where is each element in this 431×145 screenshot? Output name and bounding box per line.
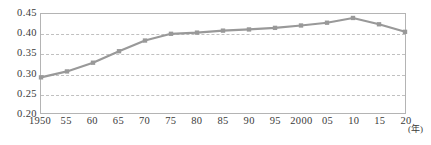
data-point-marker xyxy=(247,27,251,31)
x-axis-tick-label: 05 xyxy=(322,116,333,127)
y-axis-tick-label: 0.25 xyxy=(3,89,37,100)
plot-area xyxy=(40,13,406,114)
data-point-marker xyxy=(403,30,407,34)
x-axis-tick-label: 95 xyxy=(270,116,281,127)
x-axis-unit-label: (年) xyxy=(408,125,423,134)
data-point-marker xyxy=(351,16,355,20)
line-chart: 0.450.400.350.300.250.20 195055606570758… xyxy=(0,0,431,145)
x-axis-tick-label: 65 xyxy=(113,116,124,127)
x-axis-tick-label: 10 xyxy=(348,116,359,127)
data-point-marker xyxy=(221,28,225,32)
data-point-marker xyxy=(117,49,121,53)
x-axis-tick-label: 60 xyxy=(87,116,98,127)
x-axis-tick-label: 55 xyxy=(61,116,72,127)
data-point-marker xyxy=(273,26,277,30)
data-point-marker xyxy=(377,22,381,26)
x-axis-tick-label: 85 xyxy=(217,116,228,127)
x-axis-tick-label: 75 xyxy=(165,116,176,127)
data-point-marker xyxy=(91,61,95,65)
x-axis-tick-label: 1950 xyxy=(29,116,51,127)
x-axis-tick-labels: 1950556065707580859095200005101520 xyxy=(0,116,431,132)
data-point-marker xyxy=(299,23,303,27)
x-axis-tick-label: 90 xyxy=(244,116,255,127)
x-axis-tick-label: 70 xyxy=(139,116,150,127)
data-point-marker xyxy=(39,75,43,79)
data-point-marker xyxy=(65,69,69,73)
data-series-layer xyxy=(41,14,405,113)
x-axis-tick-label: 2000 xyxy=(290,116,312,127)
data-point-marker xyxy=(195,30,199,34)
x-axis-tick-label: 80 xyxy=(191,116,202,127)
y-axis-tick-label: 0.40 xyxy=(3,28,37,39)
x-axis-tick-label: 15 xyxy=(374,116,385,127)
data-point-marker xyxy=(325,21,329,25)
y-axis-tick-label: 0.30 xyxy=(3,69,37,80)
data-point-marker xyxy=(143,38,147,42)
y-axis-tick-label: 0.45 xyxy=(3,8,37,19)
series-line xyxy=(41,18,405,77)
data-point-marker xyxy=(169,32,173,36)
series-markers xyxy=(39,16,407,80)
y-axis-tick-label: 0.35 xyxy=(3,48,37,59)
